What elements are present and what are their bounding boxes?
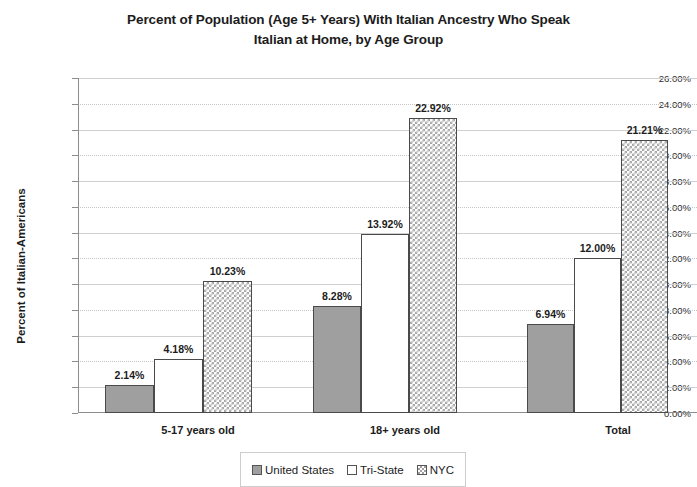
bar-value-label: 22.92% xyxy=(415,102,451,114)
legend-label: NYC xyxy=(430,464,454,476)
bar-tri-state-18-years-old[interactable] xyxy=(361,234,409,413)
bar-value-label: 2.14% xyxy=(115,369,145,381)
legend-item-united-states[interactable]: United States xyxy=(252,464,334,476)
bar-value-label: 6.94% xyxy=(536,308,566,320)
bar-united-states-18-years-old[interactable] xyxy=(313,306,361,413)
x-axis-category-label: Total xyxy=(605,424,630,436)
legend-swatch-icon xyxy=(347,465,357,475)
x-axis-category-label: 5-17 years old xyxy=(161,424,234,436)
bar-value-label: 4.18% xyxy=(164,343,194,355)
bar-value-label: 13.92% xyxy=(367,218,403,230)
legend-item-nyc[interactable]: NYC xyxy=(417,464,454,476)
bar-value-label: 12.00% xyxy=(580,242,616,254)
y-axis-title: Percent of Italian-Americans xyxy=(15,141,27,391)
x-axis-category-label: 18+ years old xyxy=(370,424,440,436)
chart-legend: United StatesTri-StateNYC xyxy=(240,452,466,487)
bar-value-label: 8.28% xyxy=(322,290,352,302)
legend-swatch-icon xyxy=(417,465,427,475)
bar-nyc-18-years-old[interactable] xyxy=(409,118,457,413)
legend-label: Tri-State xyxy=(360,464,404,476)
legend-swatch-icon xyxy=(252,465,262,475)
bar-value-label: 10.23% xyxy=(210,265,246,277)
bar-value-label: 21.21% xyxy=(627,124,663,136)
plot-area: 2.14%4.18%10.23%8.28%13.92%22.92%6.94%12… xyxy=(78,78,697,413)
chart-title: Percent of Population (Age 5+ Years) Wit… xyxy=(0,10,697,50)
chart-title-line-1: Percent of Population (Age 5+ Years) Wit… xyxy=(0,10,697,30)
bar-nyc-total[interactable] xyxy=(621,140,668,413)
chart-title-line-2: Italian at Home, by Age Group xyxy=(0,30,697,50)
bar-tri-state-total[interactable] xyxy=(574,258,621,413)
legend-item-tri-state[interactable]: Tri-State xyxy=(347,464,404,476)
bar-united-states-total[interactable] xyxy=(527,324,574,413)
legend-label: United States xyxy=(265,464,334,476)
bar-nyc-5-17-years-old[interactable] xyxy=(203,281,252,413)
bar-tri-state-5-17-years-old[interactable] xyxy=(154,359,203,413)
bar-united-states-5-17-years-old[interactable] xyxy=(105,385,154,413)
y-axis-tick-mark xyxy=(72,413,78,414)
